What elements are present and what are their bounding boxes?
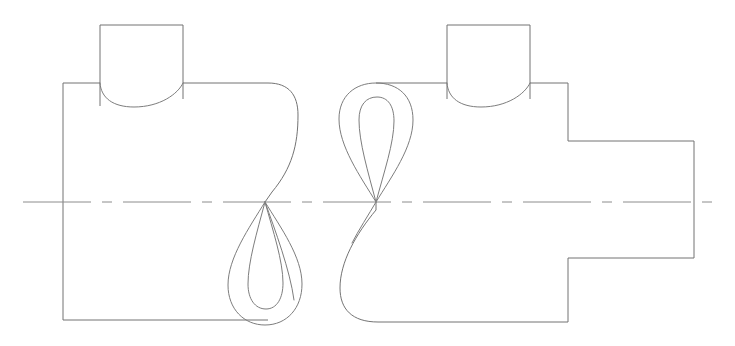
drawing-svg [0,0,735,346]
right-view-cusp-tangent-line [352,202,376,243]
right-view-shaft-outline [568,141,694,258]
right-view-teardrop-inner-loop [359,97,394,202]
right-view-side [339,25,694,322]
left-view-boss-outline [100,25,183,106]
right-view-boss-outline [447,25,530,99]
left-view-front [63,25,302,325]
left-view-teardrop-outer-loop [228,202,302,325]
left-view-teardrop-inner-loop [248,202,283,309]
left-view-boss-intersection-arc [100,83,183,107]
technical-drawing-canvas [0,0,735,346]
right-view-boss-intersection-arc [447,83,530,107]
right-view-teardrop-outer-loop [339,83,413,202]
